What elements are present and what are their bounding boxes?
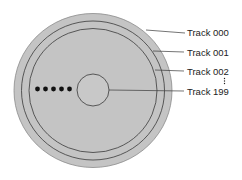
disk-diagram: Track 000 Track 001 Track 002 Track 199 — [0, 0, 242, 180]
label-track-001: Track 001 — [187, 47, 229, 58]
label-track-002: Track 002 — [187, 66, 229, 77]
ring-track-199 — [77, 74, 109, 106]
label-track-199: Track 199 — [187, 86, 229, 97]
label-track-000: Track 000 — [187, 27, 229, 38]
vertical-ellipsis — [224, 78, 225, 84]
